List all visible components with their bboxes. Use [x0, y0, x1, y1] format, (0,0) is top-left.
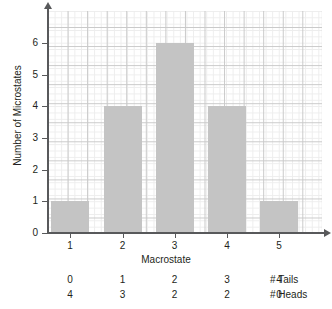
bars-layer [48, 11, 322, 233]
annotation-value: 2 [160, 272, 190, 287]
x-axis-title: Macrostate [0, 254, 332, 265]
bar [51, 201, 89, 233]
annotation-value: 1 [108, 272, 138, 287]
y-axis-tick [42, 75, 48, 76]
bar [156, 43, 194, 233]
annotation-row: 01234# Tails [0, 272, 332, 287]
x-axis-tick [123, 233, 124, 238]
annotation-value: 0 [55, 272, 85, 287]
x-axis-tick-label: 3 [160, 240, 190, 251]
y-axis-tick [42, 138, 48, 139]
x-axis-tick [175, 233, 176, 238]
y-axis-tick-label: 0 [14, 228, 38, 238]
annotation-value: 3 [212, 272, 242, 287]
annotation-row-label: # Tails [270, 272, 332, 287]
y-axis-arrow-icon [44, 2, 52, 9]
annotation-value: 2 [160, 287, 190, 302]
annotation-value: 2 [212, 287, 242, 302]
bar [260, 201, 298, 233]
x-axis-tick [279, 233, 280, 238]
y-axis-tick [42, 170, 48, 171]
x-axis-tick-label: 5 [264, 240, 294, 251]
annotation-row: 43220# Heads [0, 287, 332, 302]
x-axis-line [47, 232, 325, 234]
y-axis-title: Number of Microstates [12, 36, 23, 196]
annotation-value: 4 [55, 287, 85, 302]
x-axis-tick-label: 1 [55, 240, 85, 251]
x-axis-tick [227, 233, 228, 238]
x-axis-arrow-icon [324, 229, 331, 237]
annotation-row-label: # Heads [270, 287, 332, 302]
annotation-table: 01234# Tails43220# Heads [0, 272, 332, 306]
y-axis-tick-label: 1 [14, 196, 38, 206]
bar [104, 106, 142, 233]
y-axis-tick [42, 201, 48, 202]
annotation-value: 3 [108, 287, 138, 302]
y-axis-tick [42, 106, 48, 107]
y-axis-tick [42, 233, 48, 234]
bar [208, 106, 246, 233]
x-axis-tick-label: 4 [212, 240, 242, 251]
x-axis-tick-label: 2 [108, 240, 138, 251]
x-axis-tick [70, 233, 71, 238]
microstates-bar-chart: 012345612345 Number of Microstates Macro… [0, 0, 332, 309]
y-axis-tick [42, 43, 48, 44]
